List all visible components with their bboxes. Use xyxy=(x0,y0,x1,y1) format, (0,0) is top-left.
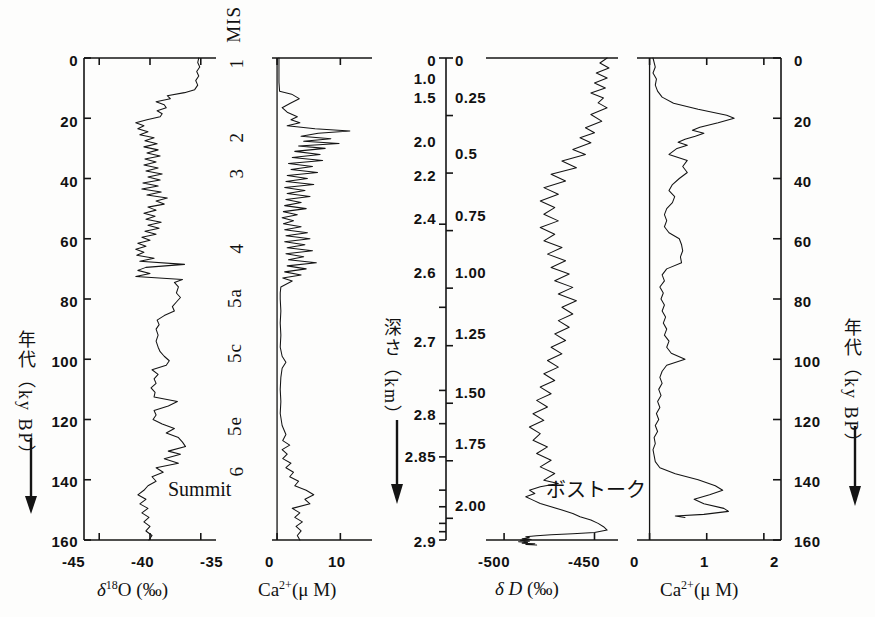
p1-ytick-20: 20 xyxy=(41,113,78,130)
isotope-mass: 18 xyxy=(106,578,118,592)
species-Ca-1: Ca xyxy=(258,579,279,600)
mis-stage-5c: 5c xyxy=(224,343,246,363)
p1-ytick-40: 40 xyxy=(41,173,78,190)
delta-symbol: δ xyxy=(97,579,106,600)
mis-stage-2: 2 xyxy=(226,132,248,143)
mis-stage-5a: 5a xyxy=(224,288,246,308)
p4-ytick-60: 60 xyxy=(794,233,812,250)
p3-x-axis-title: δ D (‰) xyxy=(495,578,559,600)
mis-stage-4: 4 xyxy=(226,243,248,254)
p1-y-axis-arrow xyxy=(22,438,40,516)
p4-xtick-0: 0 xyxy=(630,553,639,570)
p4-ytick-80: 80 xyxy=(794,293,812,310)
p3-depth-1p5: 1.5 xyxy=(390,89,436,106)
p1-ytick-160: 160 xyxy=(34,533,78,550)
micromolar-units-2: (μ M) xyxy=(694,579,739,600)
p1-ytick-120: 120 xyxy=(34,413,78,430)
p3-depth-2p4: 2.4 xyxy=(390,210,436,227)
p3-depth-0: 0 xyxy=(398,52,436,69)
p3-depth-2p6: 2.6 xyxy=(390,264,436,281)
p1-xtick-m45: -45 xyxy=(62,553,85,570)
p3-age-1p00: 1.00 xyxy=(455,264,486,281)
mis-header: MIS xyxy=(223,6,245,43)
p4-ytick-140: 140 xyxy=(794,473,821,490)
p4-ytick-0: 0 xyxy=(794,52,803,69)
summit-ca-curve xyxy=(279,58,350,540)
p1-ytick-100: 100 xyxy=(34,353,78,370)
permil-units: (‰) xyxy=(136,579,168,600)
species-O: O xyxy=(118,579,132,600)
p4-xtick-2: 2 xyxy=(770,553,779,570)
vostok-dd-curve xyxy=(519,58,609,545)
p3-age-2p00: 2.00 xyxy=(455,497,486,514)
mis-stage-6: 6 xyxy=(226,466,248,477)
charge-2plus-2: 2+ xyxy=(681,578,694,592)
p3-depth-axis-label: 深さ（km） xyxy=(378,318,404,425)
p1-xtick-m40: -40 xyxy=(131,553,154,570)
p1-xtick-m35: -35 xyxy=(200,553,223,570)
mis-stage-1: 1 xyxy=(226,58,248,69)
summit-site-label: Summit xyxy=(168,478,231,501)
figure-root: MIS 1 2 3 4 5a 5c 5e 6 0 20 40 60 80 100… xyxy=(0,0,875,617)
p4-x-axis-title: Ca2+(μ M) xyxy=(660,578,738,601)
p4-ytick-20: 20 xyxy=(794,113,812,130)
p1-x-axis-title: δ18O (‰) xyxy=(97,578,168,601)
charge-2plus-1: 2+ xyxy=(279,578,292,592)
p3-age-1p50: 1.50 xyxy=(455,384,486,401)
p3-depth-2p0: 2.0 xyxy=(390,133,436,150)
p3-age-0p5: 0.5 xyxy=(455,145,477,162)
p3-depth-2p9: 2.9 xyxy=(390,533,436,550)
summit-d18o-curve xyxy=(136,58,200,540)
p3-depth-1p0: 1.0 xyxy=(390,70,436,87)
p3-depth-axis-arrow xyxy=(388,420,406,506)
p3-age-1p25: 1.25 xyxy=(455,325,486,342)
summit-d18o-plot xyxy=(0,0,875,617)
p3-xtick-m500: -500 xyxy=(478,553,510,570)
p1-ytick-0: 0 xyxy=(48,52,78,69)
fukasa-text: 深さ xyxy=(381,318,401,358)
vostok-site-label: ボストーク xyxy=(546,474,646,503)
p2-x-axis-title: Ca2+(μ M) xyxy=(258,578,336,601)
km-units: （km） xyxy=(381,358,401,425)
p1-ytick-60: 60 xyxy=(41,233,78,250)
micromolar-units-1: (μ M) xyxy=(292,579,337,600)
delta-symbol-2: δ xyxy=(495,578,504,599)
p2-xtick-10: 10 xyxy=(328,553,346,570)
mis-stage-3: 3 xyxy=(226,168,248,179)
p2-xtick-0: 0 xyxy=(265,553,274,570)
p4-xtick-1: 1 xyxy=(700,553,709,570)
p4-y-axis-arrow xyxy=(846,426,864,508)
vostok-ca-curve xyxy=(653,58,734,517)
mis-stage-5e: 5e xyxy=(224,416,246,436)
nendai-text: 年代 xyxy=(15,330,35,370)
p4-ytick-100: 100 xyxy=(794,353,821,370)
p1-ytick-140: 140 xyxy=(34,473,78,490)
p4-ytick-160: 160 xyxy=(794,533,821,550)
p4-ytick-120: 120 xyxy=(794,413,821,430)
p3-xtick-m450: -450 xyxy=(568,553,600,570)
p3-age-0p75: 0.75 xyxy=(455,207,486,224)
nendai-text-2: 年代 xyxy=(841,318,861,358)
p3-age-1p75: 1.75 xyxy=(455,435,486,452)
p3-age-0: 0 xyxy=(455,52,464,69)
species-D: D xyxy=(509,578,523,599)
p4-ytick-40: 40 xyxy=(794,173,812,190)
p3-depth-2p2: 2.2 xyxy=(390,167,436,184)
p3-age-0p25: 0.25 xyxy=(455,89,486,106)
permil-units-2: (‰) xyxy=(527,578,559,599)
species-Ca-2: Ca xyxy=(660,579,681,600)
p1-ytick-80: 80 xyxy=(41,293,78,310)
